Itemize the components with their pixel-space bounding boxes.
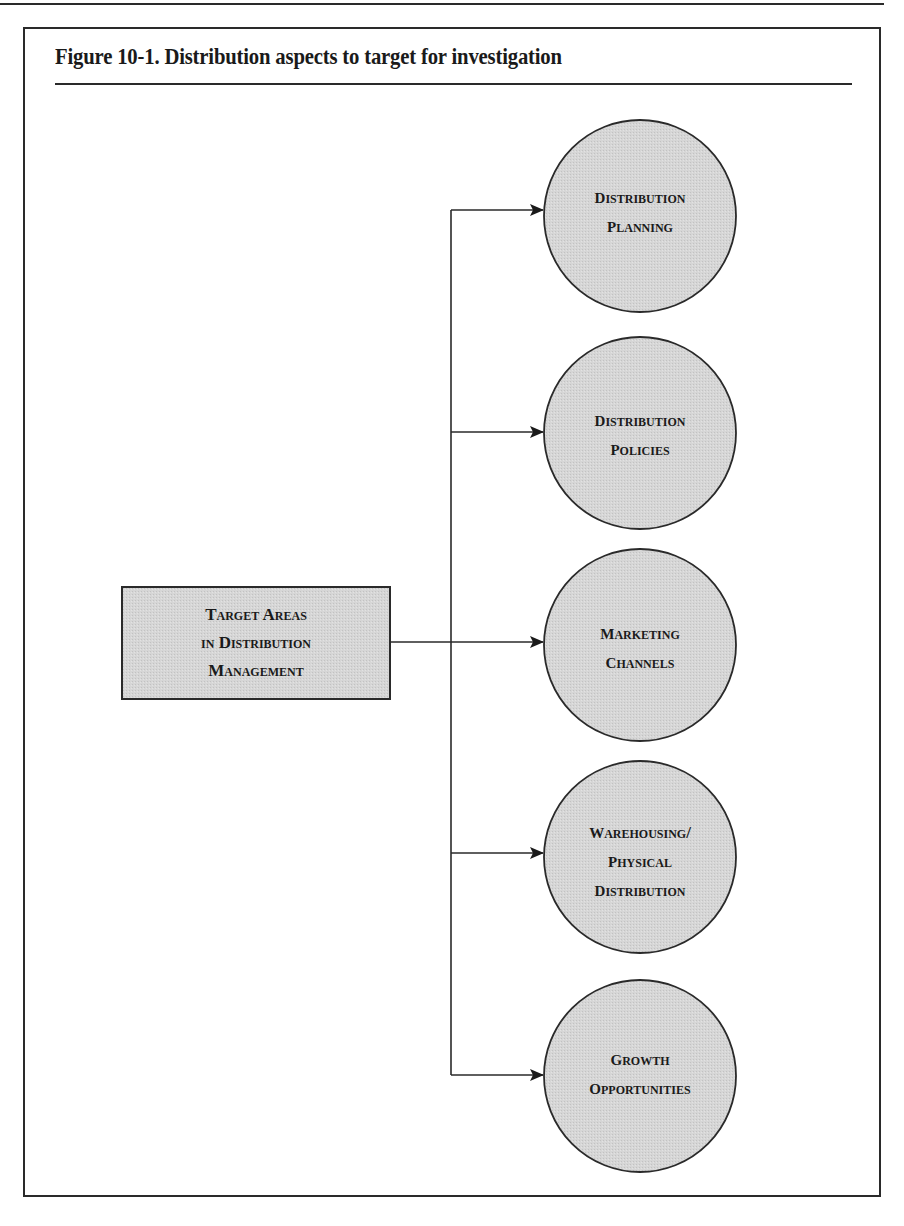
connectors: [390, 210, 543, 1075]
label-growth-opportunities: Growth Opportunities: [544, 1044, 736, 1102]
label-distribution-policies: Distribution Policies: [544, 405, 736, 463]
label-distribution-planning: Distribution Planning: [544, 182, 736, 240]
root-label: Target Areas in Distribution Management: [122, 587, 390, 699]
root-label-line-3: Management: [208, 657, 303, 685]
label-marketing-channels: Marketing Channels: [544, 618, 736, 676]
label-warehousing-physical-distribution: Warehousing/ Physical Distribution: [544, 817, 736, 904]
root-label-line-1: Target Areas: [205, 601, 307, 629]
root-label-line-2: in Distribution: [201, 629, 311, 657]
